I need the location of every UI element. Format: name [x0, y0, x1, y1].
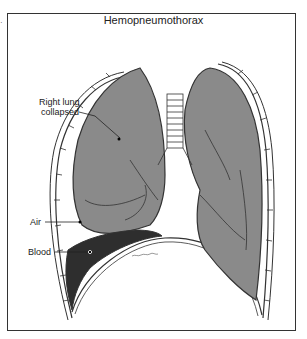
- label-air: Air: [30, 217, 41, 227]
- right-lung-collapsed: [73, 68, 165, 234]
- artist-signature: [132, 253, 158, 256]
- left-lung: [184, 68, 262, 300]
- label-right-lung-line2: collapsed: [41, 107, 79, 117]
- blood-pool: [66, 230, 162, 310]
- label-right-lung-line1: Right lung: [39, 97, 80, 107]
- corner-mark: ·: [0, 18, 3, 27]
- label-blood: Blood: [28, 247, 51, 257]
- lung-illustration: [0, 0, 307, 339]
